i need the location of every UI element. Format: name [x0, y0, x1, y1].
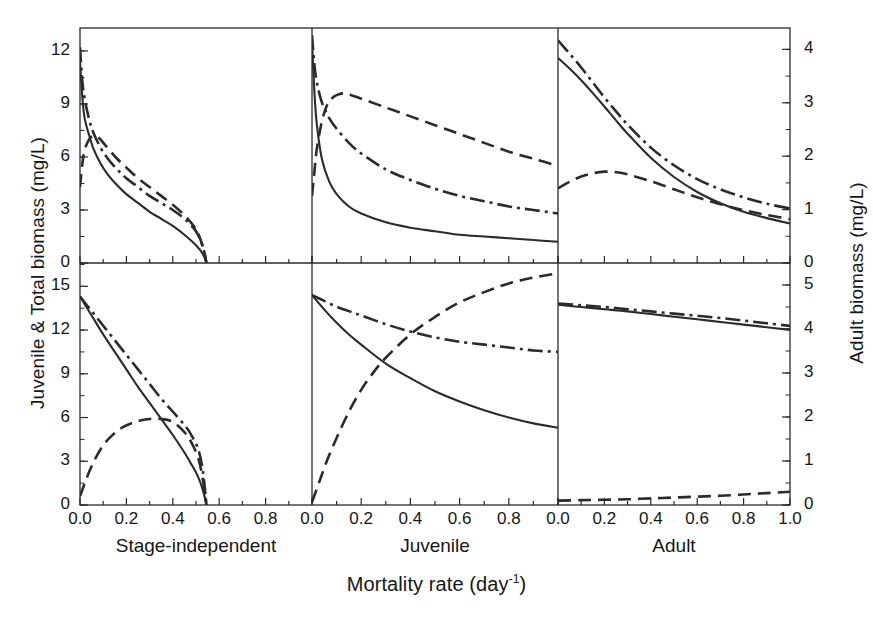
curve-top-left-dashed — [80, 136, 206, 263]
panel-top-left — [80, 47, 206, 263]
curve-top-right-dashdot — [558, 40, 790, 208]
panel-bottom-middle — [312, 273, 558, 502]
curve-bottom-right-solid — [558, 305, 790, 330]
panel-top-right — [558, 40, 790, 223]
figure-container: Juvenile & Total biomass (mg/L) Adult bi… — [0, 0, 873, 626]
curve-bottom-middle-solid — [312, 295, 558, 428]
panel-bottom-left — [80, 297, 206, 505]
plot-svg — [0, 0, 873, 626]
curve-top-left-solid — [80, 62, 206, 263]
curve-bottom-middle-dashdot — [312, 295, 558, 352]
panel-top-middle — [312, 35, 558, 242]
curve-bottom-right-dashed — [558, 492, 790, 501]
curve-bottom-left-dashed — [80, 419, 206, 505]
curve-top-right-dashed — [558, 172, 790, 220]
curve-bottom-middle-dashed — [312, 273, 558, 502]
curve-top-right-solid — [558, 58, 790, 224]
panel-bottom-right — [558, 303, 790, 500]
curve-bottom-right-dashdot — [558, 303, 790, 325]
curve-top-left-dashdot — [80, 47, 206, 263]
curve-bottom-left-solid — [80, 297, 206, 505]
